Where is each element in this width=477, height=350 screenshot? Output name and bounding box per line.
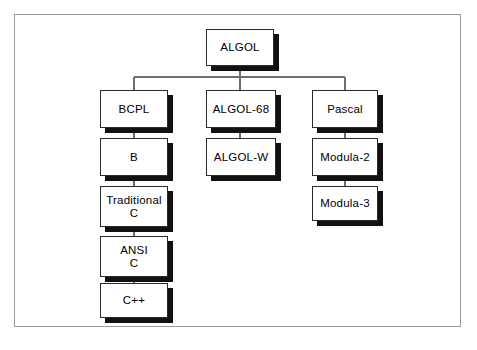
node-algol-w[interactable]: ALGOL-W [206, 138, 276, 176]
node-label: ALGOL-68 [213, 103, 270, 116]
node-algol-68[interactable]: ALGOL-68 [206, 90, 276, 128]
node-ansi-c[interactable]: ANSI C [100, 236, 168, 277]
node-label: Pascal [327, 103, 363, 116]
node-b[interactable]: B [100, 138, 168, 176]
node-label: ANSI C [120, 244, 148, 270]
node-modula-2[interactable]: Modula-2 [312, 138, 378, 176]
node-cpp[interactable]: C++ [100, 283, 168, 318]
node-bcpl[interactable]: BCPL [100, 90, 168, 128]
node-traditional-c[interactable]: Traditional C [100, 186, 168, 227]
node-label: Modula-2 [320, 151, 370, 164]
node-label: BCPL [119, 103, 150, 116]
node-label: Traditional C [106, 194, 161, 220]
node-label: C++ [123, 294, 145, 307]
diagram-canvas: ALGOL BCPL B Traditional C ANSI C C++ AL… [0, 0, 477, 350]
node-modula-3[interactable]: Modula-3 [312, 186, 378, 221]
node-label: ALGOL-W [214, 151, 268, 164]
node-algol[interactable]: ALGOL [206, 29, 274, 66]
node-label: ALGOL [220, 41, 259, 54]
node-label: B [130, 151, 138, 164]
node-pascal[interactable]: Pascal [312, 90, 378, 128]
node-label: Modula-3 [320, 197, 370, 210]
